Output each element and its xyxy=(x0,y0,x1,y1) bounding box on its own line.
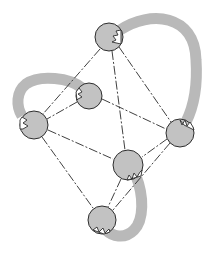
band-b-c xyxy=(18,78,82,116)
edge-c-f xyxy=(42,137,93,208)
band-a-d xyxy=(120,19,196,122)
edge-b-d xyxy=(102,99,166,129)
edge-a-e xyxy=(112,51,125,150)
node-e[interactable] xyxy=(113,150,143,180)
graph-diagram xyxy=(0,0,210,258)
edge-d-e xyxy=(142,139,167,157)
node-d[interactable] xyxy=(166,119,194,147)
edge-c-e xyxy=(48,130,113,159)
node-f[interactable] xyxy=(88,206,116,234)
node-b[interactable] xyxy=(76,83,102,109)
edge-layer xyxy=(42,47,171,210)
edge-b-c xyxy=(47,102,77,119)
node-layer xyxy=(20,23,194,234)
node-c[interactable] xyxy=(20,111,48,139)
node-a[interactable] xyxy=(95,23,123,51)
